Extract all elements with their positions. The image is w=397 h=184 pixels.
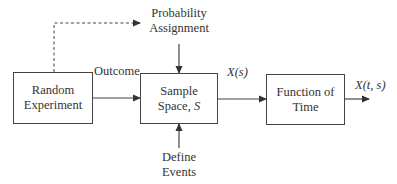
define-events-label: Define Events [149, 150, 209, 180]
random-experiment-line1: Random [24, 83, 82, 98]
probability-assignment-label: Probability Assignment [139, 6, 219, 36]
block-random-experiment: Random Experiment [13, 72, 93, 124]
random-experiment-line2: Experiment [24, 98, 82, 113]
xs-label: X(s) [227, 65, 248, 80]
sample-space-line2: Space, [158, 99, 194, 113]
block-function-of-time: Function of Time [266, 74, 345, 125]
outcome-label: Outcome [94, 64, 140, 79]
xts-label: X(t, s) [355, 78, 386, 93]
sample-space-variable: S [194, 99, 200, 113]
function-of-time-line2: Time [277, 100, 335, 115]
block-sample-space: Sample Space, S [140, 73, 218, 124]
function-of-time-line1: Function of [277, 85, 335, 100]
sample-space-line1: Sample [158, 84, 200, 99]
